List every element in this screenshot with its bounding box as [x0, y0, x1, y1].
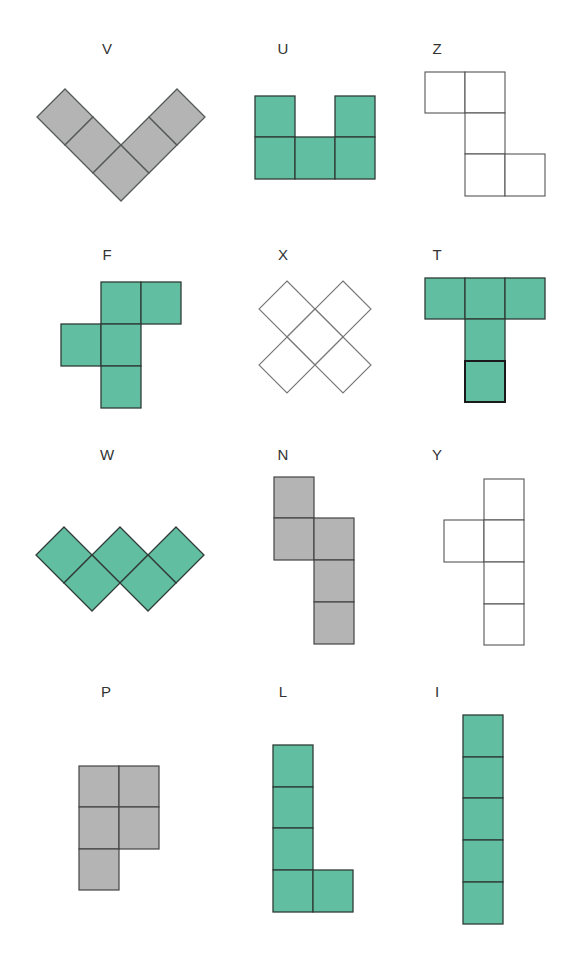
piece-y — [444, 479, 524, 645]
piece-l — [273, 745, 353, 912]
piece-i — [463, 715, 503, 924]
piece-f — [61, 282, 181, 408]
piece-u — [255, 96, 375, 179]
piece-v — [37, 89, 205, 201]
piece-p — [79, 766, 159, 890]
piece-t — [425, 278, 545, 402]
piece-z — [425, 72, 545, 196]
piece-w — [36, 527, 204, 611]
piece-x — [259, 281, 371, 393]
pentomino-diagram — [0, 0, 576, 955]
piece-n — [274, 477, 354, 644]
